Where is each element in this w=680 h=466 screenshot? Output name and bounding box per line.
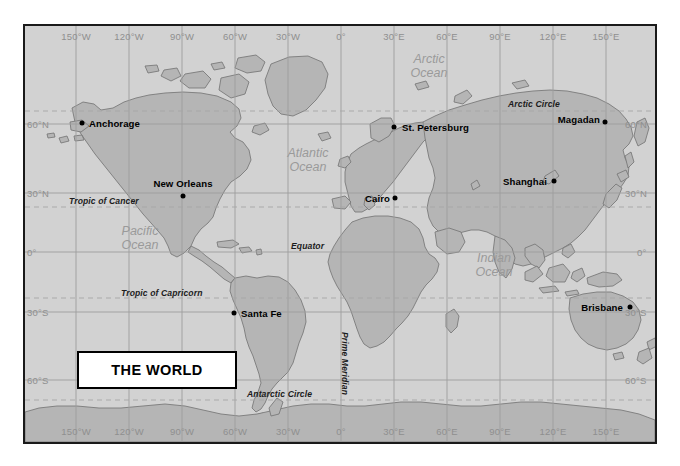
- city-dot-cairo[interactable]: [393, 196, 398, 201]
- city-dot-santa-fe[interactable]: [232, 311, 237, 316]
- land-arctic-isle-a: [145, 65, 159, 73]
- land-tasmania: [613, 352, 624, 360]
- city-dot-brisbane[interactable]: [628, 305, 633, 310]
- land-antarctica: [25, 402, 655, 442]
- city-dot-shanghai[interactable]: [552, 179, 557, 184]
- city-dot-anchorage[interactable]: [80, 121, 85, 126]
- land-aleutian-c: [47, 133, 55, 138]
- city-dot-new-orleans[interactable]: [181, 194, 186, 199]
- land-aleutian-b: [74, 135, 84, 141]
- world-map: .land { fill:#b5b5b5; stroke:#767676; st…: [23, 24, 657, 444]
- land-arctic-isle-b: [211, 62, 225, 70]
- map-title-text: THE WORLD: [111, 362, 202, 378]
- city-dot-st-petersburg[interactable]: [392, 125, 397, 130]
- map-title-box: THE WORLD: [77, 351, 237, 389]
- city-dot-magadan[interactable]: [603, 120, 608, 125]
